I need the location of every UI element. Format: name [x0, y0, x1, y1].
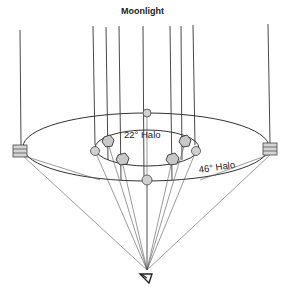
- hex-crystal-icon: [179, 135, 191, 147]
- observer-eye-icon: [140, 274, 152, 283]
- crystal-bottom-icon: [142, 175, 152, 185]
- halo-22-label: 22° Halo: [124, 129, 161, 140]
- ice-crystals: [13, 109, 277, 185]
- diagram-title: Moonlight: [121, 6, 164, 16]
- diagram-canvas: [0, 0, 289, 295]
- crystal-right-icon: [192, 147, 201, 156]
- crystal-left-icon: [91, 147, 100, 156]
- crystal-left-plate-icon: [13, 145, 27, 157]
- crystal-right-plate-icon: [263, 143, 277, 155]
- hex-crystal-icon: [102, 135, 114, 147]
- halo-diagram: Moonlight 22° Halo 46° Halo: [0, 0, 289, 295]
- crystal-top-icon: [143, 109, 151, 117]
- halo-46-ring: [23, 113, 269, 181]
- moonlight-rays: [20, 24, 270, 180]
- hex-crystal-icon: [166, 153, 179, 165]
